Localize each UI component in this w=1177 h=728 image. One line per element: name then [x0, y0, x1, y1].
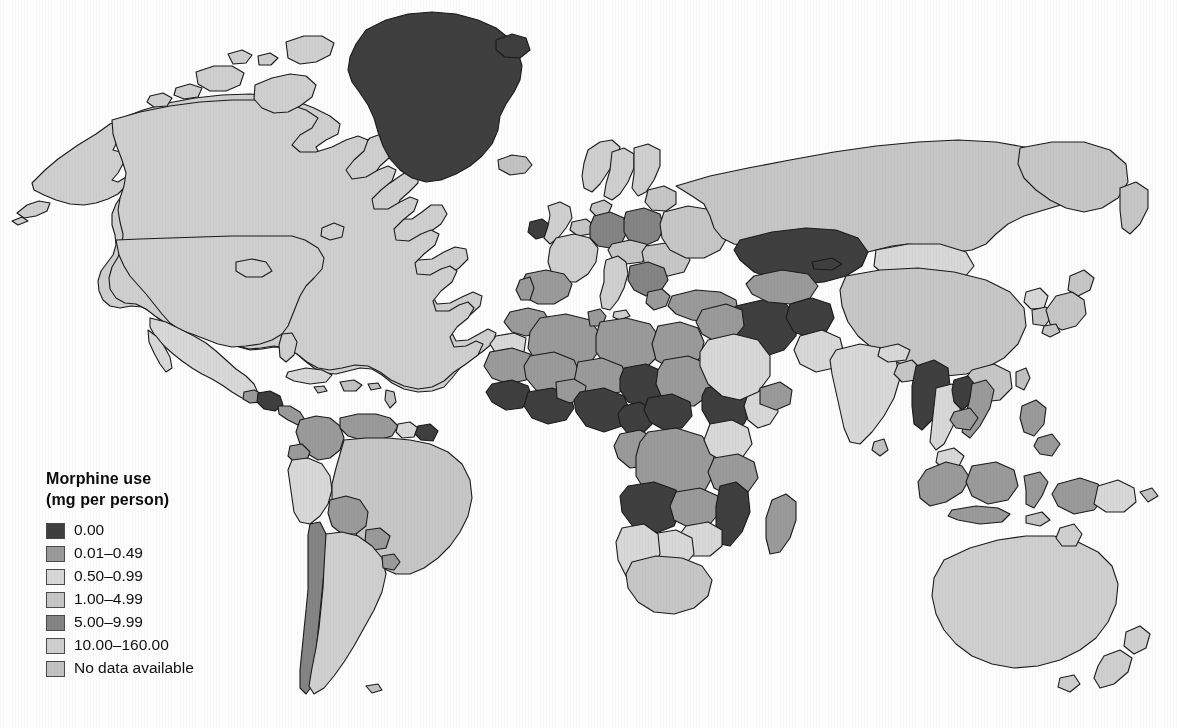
island-arctic-a — [174, 84, 202, 99]
island-falklands — [366, 684, 382, 693]
region-asia — [676, 140, 1148, 470]
island-sri-lanka — [872, 439, 888, 456]
country-italy — [600, 256, 628, 310]
country-us-florida — [279, 333, 297, 362]
country-zambia — [670, 488, 720, 528]
legend-label-4: 5.00–9.99 — [74, 612, 143, 632]
island-victoria — [196, 66, 244, 91]
island-taiwan — [1016, 368, 1030, 390]
legend-item: 0.01–0.49 — [46, 542, 306, 565]
island-lesser-antilles — [385, 390, 396, 408]
legend-title-line1: Morphine use — [46, 470, 151, 487]
country-portugal — [516, 277, 534, 300]
country-philippines — [1020, 400, 1046, 436]
country-turkmenistan-uzbekistan — [746, 270, 818, 304]
country-alaska-panhandle — [17, 201, 50, 218]
legend-item: 0.00 — [46, 519, 306, 542]
legend-label-2: 0.50–0.99 — [74, 566, 143, 586]
legend-swatch-6 — [46, 661, 65, 677]
island-arctic-c — [228, 50, 252, 64]
country-australia-cape-york — [1056, 524, 1082, 546]
island-jamaica — [314, 386, 327, 393]
country-iceland — [498, 155, 532, 175]
country-australia — [932, 536, 1118, 668]
country-papua-new-guinea-east — [1094, 480, 1136, 512]
country-tasmania — [1058, 675, 1080, 692]
legend-label-5: 10.00–160.00 — [74, 635, 169, 655]
legend-swatch-0 — [46, 523, 65, 539]
region-europe — [516, 140, 738, 322]
country-greenland-ne — [496, 34, 530, 58]
country-yemen-oman — [760, 382, 792, 410]
country-french-guiana-guyana-dark — [415, 424, 438, 441]
island-ellesmere — [286, 36, 334, 64]
legend-swatch-2 — [46, 569, 65, 585]
legend-item: No data available — [46, 657, 306, 680]
island-solomon — [1140, 488, 1158, 502]
country-indonesia-sulawesi — [1024, 472, 1048, 508]
legend-swatch-3 — [46, 592, 65, 608]
region-north-america — [12, 12, 532, 425]
legend-label-1: 0.01–0.49 — [74, 543, 143, 563]
island-hispaniola — [340, 380, 362, 391]
country-new-zealand-south — [1094, 650, 1132, 688]
legend-swatch-5 — [46, 638, 65, 654]
region-south-america — [288, 414, 472, 694]
country-greece — [646, 289, 670, 310]
island-arctic-d — [258, 53, 278, 65]
legend-item: 10.00–160.00 — [46, 634, 306, 657]
legend-item: 5.00–9.99 — [46, 611, 306, 634]
world-map-figure: Morphine use (mg per person) 0.00 0.01–0… — [0, 0, 1177, 728]
country-north-korea — [1024, 288, 1048, 309]
country-philippines-south — [1034, 434, 1060, 456]
country-venezuela — [340, 414, 398, 440]
legend-label-0: 0.00 — [74, 520, 104, 540]
country-new-zealand-north — [1124, 626, 1150, 654]
country-japan-kyushu — [1042, 324, 1060, 337]
legend-item: 0.50–0.99 — [46, 565, 306, 588]
region-oceania — [918, 400, 1158, 692]
island-timor — [1026, 512, 1050, 526]
country-indonesia-borneo — [966, 462, 1018, 504]
country-baltics — [645, 186, 676, 211]
island-puerto-rico — [368, 383, 381, 390]
country-madagascar — [766, 494, 796, 554]
legend-label-6: No data available — [74, 658, 194, 678]
country-guyana-suriname — [396, 422, 418, 438]
legend-swatch-1 — [46, 546, 65, 562]
legend-swatch-4 — [46, 615, 65, 631]
island-arctic-b — [147, 93, 172, 107]
legend-label-3: 1.00–4.99 — [74, 589, 143, 609]
legend-title: Morphine use (mg per person) — [46, 468, 306, 510]
country-south-africa — [626, 556, 712, 614]
map-legend: Morphine use (mg per person) 0.00 0.01–0… — [46, 468, 306, 680]
country-indonesia-java — [948, 506, 1010, 524]
country-kamchatka — [1120, 182, 1148, 234]
legend-item: 1.00–4.99 — [46, 588, 306, 611]
legend-title-line2: (mg per person) — [46, 489, 306, 510]
country-indonesia-sumatra — [918, 462, 970, 506]
